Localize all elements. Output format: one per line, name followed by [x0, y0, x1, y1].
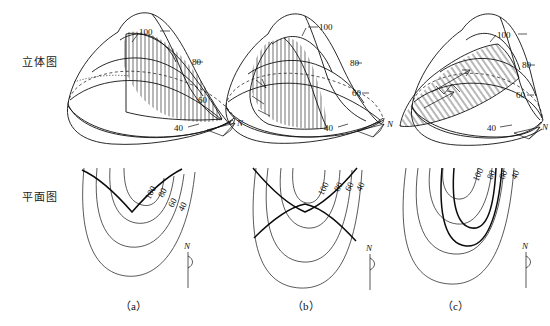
plan-contour-40-a	[83, 168, 195, 276]
leader-40-c	[500, 125, 512, 127]
row-label-plan: 平面图	[22, 191, 58, 204]
hatched-valley-a	[110, 20, 240, 140]
north-arrow-plan-c: N	[521, 241, 531, 288]
stereo-label-60-c: 60	[516, 90, 526, 100]
north-arrow-plan-a: N	[183, 241, 193, 288]
plan-break-line-lower-b	[254, 204, 356, 241]
leader-40-b	[338, 124, 348, 127]
row-label-stereo: 立体图	[22, 55, 58, 69]
stereo-label-100-a: 100	[139, 27, 153, 37]
north-label-plan-a: N	[183, 241, 191, 251]
panel-c-stereo: 100 80 60 40 N	[394, 14, 549, 145]
plan-label-40-c: 40	[509, 168, 522, 181]
stereo-label-80-b: 80	[350, 58, 360, 68]
hatched-ridge-c	[394, 34, 534, 134]
plan-contour-80-b	[280, 168, 340, 228]
stereo-label-40-a: 40	[174, 123, 184, 133]
plan-label-80-a: 80	[156, 186, 169, 199]
north-arrow-plan-b: N	[365, 243, 375, 290]
plan-label-60-c: 60	[497, 168, 510, 181]
plan-label-100-b: 100	[316, 180, 331, 197]
plan-label-100-c: 100	[471, 166, 486, 183]
caption-c: （c）	[442, 300, 469, 312]
north-label-stereo-a: N	[236, 118, 244, 128]
panel-b-plan: 100 80 60 40 N （b）	[253, 168, 375, 312]
panel-a-plan: 100 80 60 40 N （a）	[82, 168, 195, 312]
north-label-plan-c: N	[521, 241, 529, 251]
leader-100-c	[490, 35, 496, 42]
caption-a: （a）	[120, 300, 147, 312]
stereo-label-80-c: 80	[522, 60, 532, 70]
panel-a-stereo: 100 80 60 40 N	[67, 13, 244, 145]
stereo-label-60-a: 60	[198, 95, 208, 105]
north-label-stereo-b: N	[386, 119, 394, 129]
panel-c-plan: 100 80 60 40 N （c）	[403, 166, 530, 312]
stereo-label-40-b: 40	[324, 123, 334, 133]
leader-100-b	[302, 28, 306, 36]
stereo-label-80-a: 80	[192, 57, 202, 67]
north-label-stereo-c: N	[541, 122, 549, 132]
plan-label-40-b: 40	[354, 180, 367, 193]
north-label-plan-b: N	[365, 243, 373, 253]
leader-40-a	[188, 124, 199, 127]
panel-b-stereo: 100 80 60 40 N	[226, 14, 394, 144]
stereo-label-100-c: 100	[497, 30, 511, 40]
stereo-label-40-c: 40	[487, 123, 497, 133]
caption-b: （b）	[292, 300, 320, 312]
stereo-label-100-b: 100	[319, 22, 333, 32]
stereo-label-60-b: 60	[352, 88, 362, 98]
figure-canvas: 立体图 平面图 100 80	[0, 0, 550, 326]
plan-contour-40-c	[403, 168, 514, 284]
